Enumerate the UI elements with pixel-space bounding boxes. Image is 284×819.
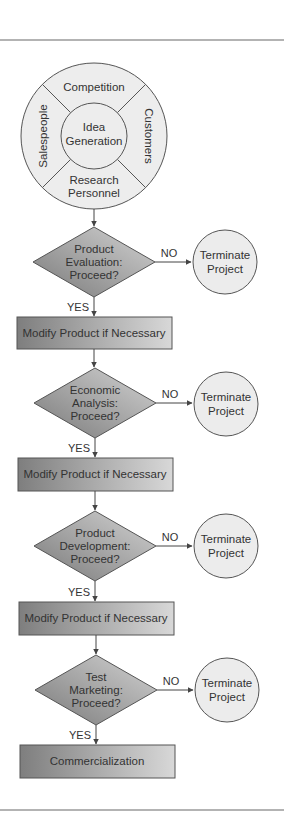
no-label: NO xyxy=(163,675,180,687)
terminate-label-line2: Project xyxy=(208,547,245,559)
decision-label-line1: Product xyxy=(75,527,115,539)
terminate-label-line1: Terminate xyxy=(200,249,251,261)
action-label: Modify Product if Necessary xyxy=(22,327,165,339)
terminate-circle xyxy=(195,658,259,722)
no-label: NO xyxy=(161,247,178,259)
decision-label-line2: Evaluation: xyxy=(66,256,123,268)
yes-label: YES xyxy=(68,586,90,598)
flowchart: Idea Generation Competition Customers Sa… xyxy=(0,0,284,819)
yes-label: YES xyxy=(69,729,91,741)
segment-top-label: Competition xyxy=(63,81,124,93)
commercialization-label: Commercialization xyxy=(50,755,145,767)
stage-product-evaluation: Product Evaluation: Proceed? NO Terminat… xyxy=(17,227,257,349)
decision-label-line1: Test xyxy=(85,671,107,683)
decision-label-line3: Proceed? xyxy=(70,553,119,565)
terminate-label-line2: Project xyxy=(209,691,246,703)
decision-label-line2: Marketing: xyxy=(69,684,123,696)
terminate-label-line1: Terminate xyxy=(201,391,252,403)
action-label: Modify Product if Necessary xyxy=(24,612,167,624)
inner-label-line1: Idea xyxy=(83,121,106,133)
segment-bottom-label-line2: Personnel xyxy=(68,187,120,199)
decision-label-line3: Proceed? xyxy=(69,269,118,281)
decision-label-line2: Analysis: xyxy=(72,397,118,409)
terminate-label-line2: Project xyxy=(207,263,244,275)
terminate-label-line2: Project xyxy=(208,405,245,417)
decision-label-line1: Product xyxy=(74,243,114,255)
terminate-circle xyxy=(193,230,257,294)
terminate-circle xyxy=(194,372,258,436)
terminate-label-line1: Terminate xyxy=(201,533,252,545)
terminate-circle xyxy=(194,514,258,578)
decision-label-line3: Proceed? xyxy=(71,697,120,709)
stage-economic-analysis: Economic Analysis: Proceed? NO Terminate… xyxy=(18,368,258,491)
stage-test-marketing: Test Marketing: Proceed? NO Terminate Pr… xyxy=(20,655,259,778)
no-label: NO xyxy=(162,531,179,543)
segment-left-label: Salespeople xyxy=(37,104,49,167)
yes-label: YES xyxy=(67,301,89,313)
no-label: NO xyxy=(162,388,179,400)
stage-product-development: Product Development: Proceed? NO Termina… xyxy=(19,511,258,635)
segment-bottom-label-line1: Research xyxy=(69,174,118,186)
idea-wheel: Idea Generation Competition Customers Sa… xyxy=(21,63,167,209)
action-label: Modify Product if Necessary xyxy=(23,468,166,480)
inner-label-line2: Generation xyxy=(66,135,123,147)
yes-label: YES xyxy=(68,442,90,454)
segment-right-label: Customers xyxy=(143,108,155,164)
decision-label-line1: Economic xyxy=(70,384,121,396)
decision-label-line2: Development: xyxy=(60,540,131,552)
terminate-label-line1: Terminate xyxy=(202,677,253,689)
decision-label-line3: Proceed? xyxy=(70,410,119,422)
